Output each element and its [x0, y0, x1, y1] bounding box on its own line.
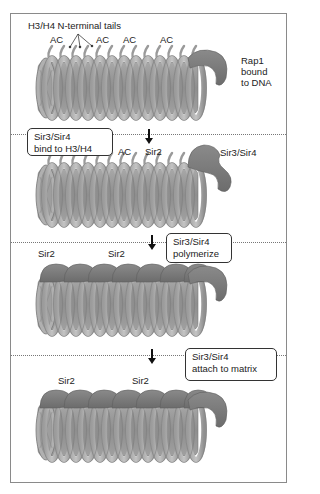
step-box-attach: Sir3/Sir4 attach to matrix — [185, 348, 277, 381]
sir2-label: Sir2 — [145, 146, 162, 157]
chromatin-fiber-1 — [36, 46, 227, 121]
rap1-label: Rap1 bound to DNA — [241, 55, 272, 88]
arrow-down-icon — [147, 235, 157, 251]
ac-label: AC — [123, 34, 136, 45]
step-box-polymerize: Sir3/Sir4 polymerize — [166, 233, 232, 263]
step-box-bind: Sir3/Sir4 bind to H3/H4 — [27, 128, 113, 156]
ac-label: AC — [50, 34, 63, 45]
chromatin-fiber-3 — [36, 264, 227, 337]
sir2-label: Sir2 — [58, 375, 75, 386]
sir2-label: Sir2 — [132, 375, 149, 386]
tails-label: H3/H4 N-terminal tails — [28, 20, 121, 31]
chromatin-fiber-4 — [36, 390, 227, 463]
arrow-down-icon — [147, 349, 157, 365]
ac-label: AC — [160, 34, 173, 45]
tails-pointer-lines — [69, 34, 93, 48]
chromatin-fiber-2 — [36, 145, 231, 228]
sir2-label: Sir2 — [108, 248, 125, 259]
sir2-label: Sir2 — [38, 248, 55, 259]
ac-label: AC — [118, 146, 131, 157]
sir3-sir4-label: Sir3/Sir4 — [220, 147, 256, 158]
arrow-down-icon — [144, 129, 154, 145]
ac-label: AC — [96, 34, 109, 45]
